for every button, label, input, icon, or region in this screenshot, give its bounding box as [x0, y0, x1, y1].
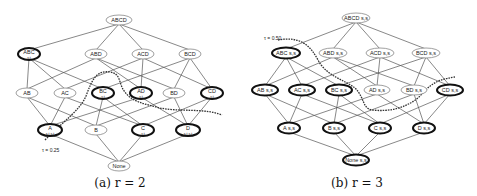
svg-text:B: B — [94, 127, 98, 133]
caption-b: (b) r = 3 — [331, 176, 383, 190]
node-C: C s,s — [369, 123, 391, 134]
node-AD: AD s,s — [364, 85, 390, 95]
node-B: B — [85, 125, 107, 135]
svg-text:ABC s,s: ABC s,s — [276, 50, 296, 56]
svg-text:s,t: s,t — [141, 132, 145, 136]
node-BD: BD — [163, 88, 185, 98]
svg-text:D s,s: D s,s — [418, 125, 431, 131]
node-BCD: BCD s,s — [412, 48, 440, 58]
svg-text:BCD: BCD — [184, 51, 196, 57]
node-BCD: BCD — [179, 49, 201, 59]
svg-text:AB: AB — [23, 90, 31, 96]
svg-text:s,t: s,t — [210, 95, 214, 99]
svg-text:C s,s: C s,s — [374, 125, 387, 131]
svg-text:None: None — [112, 163, 125, 169]
node-A: A s,s — [278, 123, 300, 134]
svg-text:AC: AC — [61, 90, 69, 96]
node-AC: AC s,s — [289, 85, 315, 96]
panel-b: τ = 0.50 ABCD s,s ABC s,s ABD s,s ACD s,… — [252, 13, 463, 190]
svg-text:ABC: ABC — [23, 49, 34, 55]
node-ABCD: ABCD — [106, 15, 132, 25]
svg-text:A s,s: A s,s — [283, 125, 295, 131]
lattice-figure: τ = 0.25 ABCD ABC s,t ABD ACD BCD AB — [0, 0, 477, 196]
node-AD: AD s,t — [130, 87, 152, 99]
node-D: D s,t,s,t — [176, 124, 200, 136]
node-C: C s,t — [132, 124, 154, 136]
node-ABC: ABC s,s — [272, 48, 300, 59]
caption-a: (a) r = 2 — [94, 176, 145, 190]
svg-text:s,t: s,t — [27, 56, 31, 60]
svg-text:AD s,s: AD s,s — [369, 87, 385, 93]
svg-text:BD s,s: BD s,s — [406, 87, 422, 93]
node-BD: BD s,s — [401, 85, 427, 95]
node-ACD: ACD s,s — [366, 48, 394, 58]
threshold-label-b: τ = 0.50 — [264, 35, 282, 41]
node-ABD: ABD — [85, 49, 107, 59]
svg-text:ABCD s,s: ABCD s,s — [344, 15, 368, 21]
node-ABD: ABD s,s — [319, 48, 347, 58]
svg-text:AC s,s: AC s,s — [294, 87, 310, 93]
node-ABCD: ABCD s,s — [342, 13, 370, 23]
svg-text:B s,s: B s,s — [328, 125, 340, 131]
node-AB: AB — [16, 88, 38, 98]
threshold-label-a: τ = 0.25 — [42, 147, 60, 153]
svg-text:BC s,s: BC s,s — [331, 87, 347, 93]
svg-text:ABD: ABD — [90, 51, 101, 57]
svg-text:ACD: ACD — [137, 51, 149, 57]
svg-text:ABCD: ABCD — [111, 17, 126, 23]
svg-text:AD: AD — [137, 88, 145, 94]
svg-text:C: C — [141, 125, 145, 131]
node-A: A s,t,s,t — [38, 124, 62, 136]
node-None: None s,s — [343, 155, 369, 166]
svg-text:BCD s,s: BCD s,s — [416, 50, 436, 56]
node-None: None — [108, 161, 130, 171]
svg-text:s,t: s,t — [139, 95, 143, 99]
node-AB: AB s,s — [252, 85, 278, 96]
svg-text:CD s,s: CD s,s — [442, 87, 459, 93]
node-CD: CD s,s — [437, 85, 463, 96]
node-BC: BC s,t — [92, 87, 114, 99]
svg-text:s,t,s,t: s,t,s,t — [184, 132, 192, 136]
node-ACD: ACD — [132, 49, 154, 59]
panel-a: τ = 0.25 ABCD ABC s,t ABD ACD BCD AB — [16, 15, 223, 190]
svg-text:None s,s: None s,s — [345, 157, 367, 163]
svg-text:D: D — [186, 125, 190, 131]
svg-text:A: A — [48, 125, 52, 131]
node-D: D s,s — [413, 123, 435, 134]
svg-text:AB s,s: AB s,s — [257, 87, 273, 93]
node-BC: BC s,s — [326, 85, 352, 96]
svg-text:CD: CD — [208, 88, 216, 94]
node-ABC: ABC s,t — [18, 48, 40, 60]
node-B: B s,s — [323, 123, 345, 134]
node-CD: CD s,t — [201, 87, 223, 99]
svg-text:ACD s,s: ACD s,s — [370, 50, 390, 56]
svg-text:s,t,s,t: s,t,s,t — [46, 132, 54, 136]
svg-text:s,t: s,t — [101, 95, 105, 99]
node-AC: AC — [54, 88, 76, 98]
svg-text:BC: BC — [99, 88, 107, 94]
svg-text:ABD s,s: ABD s,s — [323, 50, 343, 56]
svg-text:BD: BD — [170, 90, 178, 96]
